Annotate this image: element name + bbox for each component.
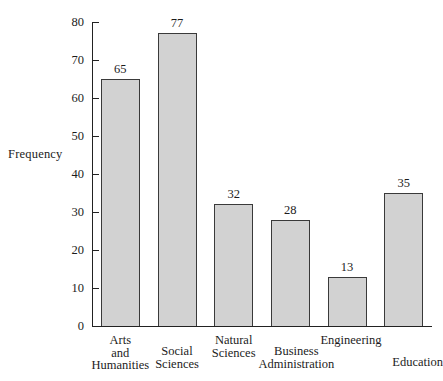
x-category-label: Education — [392, 356, 443, 369]
y-axis-title: Frequency — [8, 147, 88, 162]
x-category-label-line: Administration — [258, 358, 334, 371]
y-tick-mark — [93, 174, 99, 175]
bar-value-label: 13 — [341, 260, 354, 277]
bar — [214, 204, 253, 326]
y-tick-label: 10 — [72, 281, 85, 296]
y-tick-label: 80 — [72, 15, 85, 30]
y-tick-label: 0 — [78, 319, 84, 334]
x-category-label-line: Arts — [92, 334, 150, 347]
x-category-label-line: Sciences — [155, 358, 199, 371]
x-axis-line — [92, 326, 432, 327]
y-tick-mark — [93, 60, 99, 61]
x-category-label-line: Natural — [212, 334, 256, 347]
x-category-label: BusinessAdministration — [258, 345, 334, 370]
plot-area: 80706050403020100 657732281335 — [92, 22, 432, 326]
x-category-label: SocialSciences — [155, 345, 199, 370]
x-category-label-line: Education — [392, 356, 443, 369]
x-category-label: Engineering — [320, 334, 381, 347]
x-category-label-line: Sciences — [212, 347, 256, 360]
bar-value-label: 35 — [397, 176, 410, 193]
bar-value-label: 65 — [114, 62, 127, 79]
y-tick-label: 40 — [72, 167, 85, 182]
x-category-label-line: Humanities — [92, 359, 150, 372]
y-tick-mark — [93, 326, 99, 327]
y-tick-label: 30 — [72, 205, 85, 220]
y-tick-mark — [93, 250, 99, 251]
y-tick-label: 20 — [72, 243, 85, 258]
bar-value-label: 77 — [171, 16, 184, 33]
y-tick-mark — [93, 212, 99, 213]
x-category-label: ArtsandHumanities — [92, 334, 150, 372]
y-tick-label: 50 — [72, 129, 85, 144]
y-tick-mark — [93, 288, 99, 289]
y-tick-mark — [93, 22, 99, 23]
bar — [271, 220, 310, 326]
x-category-label: NaturalSciences — [212, 334, 256, 359]
x-category-label-line: Social — [155, 345, 199, 358]
bar — [328, 277, 367, 326]
y-tick-mark — [93, 136, 99, 137]
bar — [384, 193, 423, 326]
y-tick-label: 60 — [72, 91, 85, 106]
x-category-label-line: Engineering — [320, 334, 381, 347]
bar — [101, 79, 140, 326]
y-tick-mark — [93, 98, 99, 99]
bar-value-label: 32 — [227, 187, 240, 204]
y-tick-label: 70 — [72, 53, 85, 68]
bar — [158, 33, 197, 326]
bar-value-label: 28 — [284, 203, 297, 220]
